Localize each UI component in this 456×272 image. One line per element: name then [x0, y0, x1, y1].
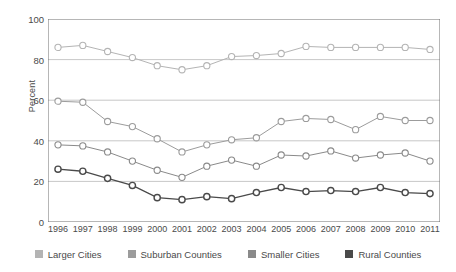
data-point	[229, 196, 235, 202]
data-point	[229, 53, 235, 59]
x-tick-label: 1997	[73, 224, 93, 234]
line-chart: Percent 020406080100 1996199719981999200…	[0, 0, 456, 272]
data-point	[328, 116, 334, 122]
series-line	[58, 45, 430, 69]
series-suburban-counties	[55, 98, 433, 155]
legend-item[interactable]: Larger Cities	[35, 249, 102, 260]
y-tick-label: 0	[18, 217, 44, 228]
legend-label: Rural Counties	[358, 249, 421, 260]
y-tick-label: 20	[18, 176, 44, 187]
data-point	[328, 187, 334, 193]
x-tick-label: 2007	[321, 224, 341, 234]
x-tick-label: 2005	[271, 224, 291, 234]
series-rural-counties	[55, 166, 433, 203]
y-tick-label: 100	[18, 14, 44, 25]
x-tick-label: 2011	[420, 224, 439, 234]
legend-swatch-icon	[345, 250, 353, 258]
data-point	[402, 150, 408, 156]
legend-swatch-icon	[128, 250, 136, 258]
x-tick-label: 2010	[395, 224, 415, 234]
data-point	[154, 195, 160, 201]
data-point	[204, 63, 210, 69]
data-point	[402, 189, 408, 195]
legend-swatch-icon	[35, 250, 43, 258]
legend-label: Smaller Cities	[261, 249, 320, 260]
data-point	[278, 50, 284, 56]
data-point	[278, 118, 284, 124]
data-point	[278, 184, 284, 190]
data-point	[353, 44, 359, 50]
data-point	[80, 99, 86, 105]
x-tick-label: 1998	[98, 224, 118, 234]
data-point	[377, 152, 383, 158]
y-tick-label: 80	[18, 54, 44, 65]
data-point	[154, 136, 160, 142]
plot-area	[48, 19, 440, 222]
data-point	[55, 98, 61, 104]
data-point	[353, 127, 359, 133]
data-point	[80, 143, 86, 149]
data-point	[229, 137, 235, 143]
series-larger-cities	[55, 42, 433, 73]
data-point	[402, 44, 408, 50]
series-line	[58, 169, 430, 199]
series-line	[58, 145, 430, 177]
data-point	[129, 182, 135, 188]
legend-swatch-icon	[248, 250, 256, 258]
data-point	[129, 123, 135, 129]
y-tick-label: 40	[18, 135, 44, 146]
plot-svg	[48, 19, 440, 222]
data-point	[229, 157, 235, 163]
data-point	[303, 115, 309, 121]
legend-label: Larger Cities	[48, 249, 102, 260]
x-tick-label: 2004	[246, 224, 266, 234]
data-point	[427, 158, 433, 164]
data-point	[105, 48, 111, 54]
data-point	[154, 63, 160, 69]
data-point	[204, 163, 210, 169]
x-tick-label: 2000	[147, 224, 167, 234]
data-point	[179, 149, 185, 155]
data-point	[377, 44, 383, 50]
data-point	[303, 43, 309, 49]
data-point	[129, 158, 135, 164]
y-tick-label: 60	[18, 95, 44, 106]
data-point	[253, 163, 259, 169]
data-point	[427, 117, 433, 123]
data-point	[55, 44, 61, 50]
data-point	[328, 148, 334, 154]
x-tick-label: 2002	[197, 224, 217, 234]
data-point	[377, 184, 383, 190]
chart-legend: Larger CitiesSuburban CountiesSmaller Ci…	[0, 246, 456, 262]
x-tick-label: 2003	[222, 224, 242, 234]
x-tick-label: 2006	[296, 224, 316, 234]
data-point	[253, 135, 259, 141]
data-point	[179, 174, 185, 180]
x-tick-label: 2001	[172, 224, 192, 234]
series-line	[58, 101, 430, 152]
data-point	[80, 168, 86, 174]
x-tick-label: 2009	[370, 224, 390, 234]
y-axis-tick-labels: 020406080100	[0, 0, 44, 272]
data-point	[303, 153, 309, 159]
data-point	[105, 175, 111, 181]
series-smaller-cities	[55, 142, 433, 181]
legend-item[interactable]: Suburban Counties	[128, 249, 222, 260]
legend-item[interactable]: Smaller Cities	[248, 249, 320, 260]
data-point	[303, 188, 309, 194]
data-point	[154, 167, 160, 173]
data-point	[427, 190, 433, 196]
data-point	[55, 142, 61, 148]
legend-label: Suburban Counties	[141, 249, 222, 260]
data-point	[55, 166, 61, 172]
x-tick-label: 1999	[122, 224, 142, 234]
data-point	[427, 46, 433, 52]
data-point	[80, 42, 86, 48]
data-point	[402, 117, 408, 123]
legend-item[interactable]: Rural Counties	[345, 249, 421, 260]
x-axis-tick-labels: 1996199719981999200020012002200320042005…	[48, 224, 440, 240]
data-point	[328, 44, 334, 50]
data-point	[204, 194, 210, 200]
data-point	[129, 54, 135, 60]
data-point	[253, 52, 259, 58]
